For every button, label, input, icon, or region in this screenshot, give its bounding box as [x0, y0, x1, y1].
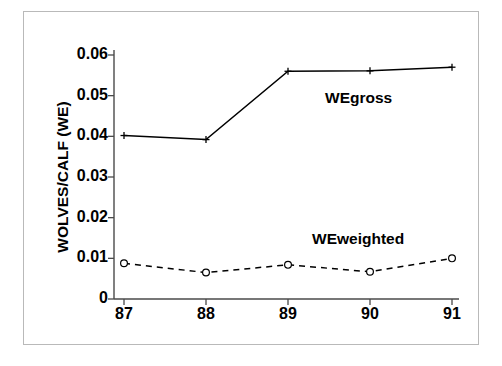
data-point-wegross-90: [367, 67, 374, 74]
data-point-weweighted-91: [449, 255, 456, 262]
data-point-weweighted-87: [121, 260, 128, 267]
data-point-weweighted-90: [367, 268, 374, 275]
series-line-wegross: [124, 67, 452, 139]
chart-canvas: [0, 0, 502, 366]
data-point-wegross-91: [449, 64, 456, 71]
data-point-weweighted-88: [203, 269, 210, 276]
data-point-wegross-87: [121, 132, 128, 139]
data-point-weweighted-89: [285, 261, 292, 268]
chart-figure: WOLVES/CALF (WE) 0 0.01 0.02 0.03 0.04 0…: [0, 0, 502, 366]
plot-area: WOLVES/CALF (WE) 0 0.01 0.02 0.03 0.04 0…: [0, 0, 502, 366]
